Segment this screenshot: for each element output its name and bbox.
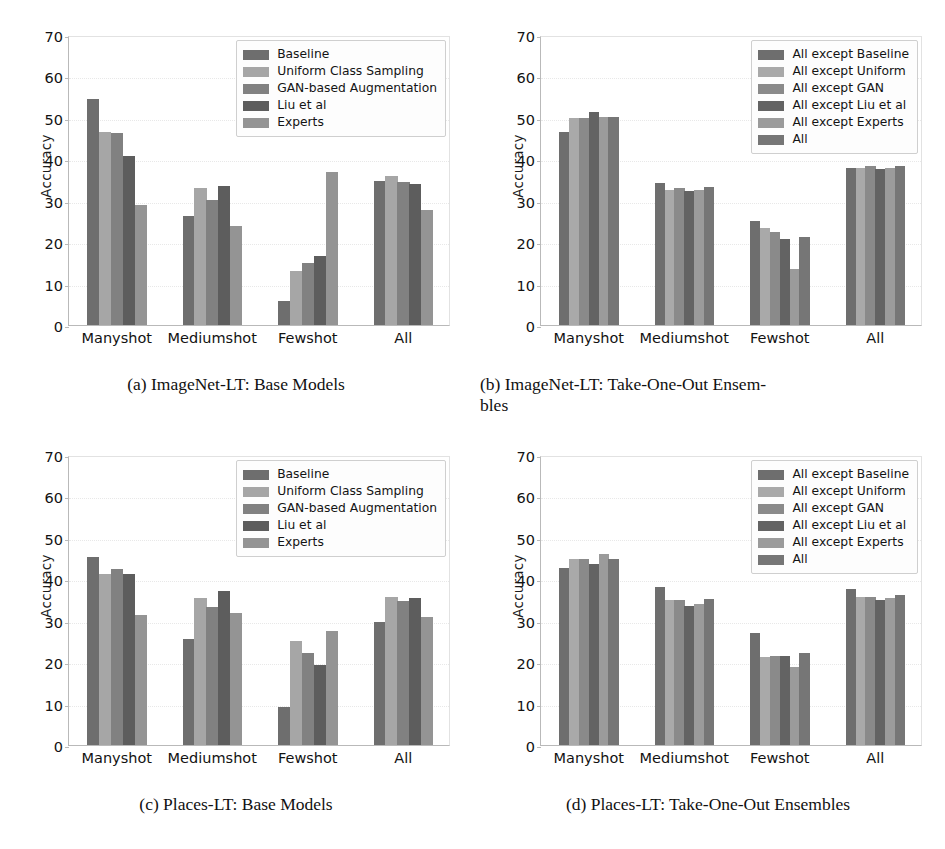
legend-item[interactable]: Liu et al bbox=[243, 97, 437, 114]
legend-swatch-icon bbox=[758, 118, 784, 128]
bar bbox=[684, 191, 694, 325]
legend-swatch-icon bbox=[243, 521, 269, 531]
bar bbox=[655, 183, 665, 326]
bar bbox=[374, 622, 386, 745]
bar bbox=[559, 132, 569, 325]
bar bbox=[750, 221, 760, 325]
bar bbox=[694, 604, 704, 745]
panel-caption-d: (d) Places-LT: Take-One-Out Ensembles bbox=[472, 794, 944, 815]
legend-swatch-icon bbox=[243, 50, 269, 60]
legend-item[interactable]: All except Uniform bbox=[758, 63, 909, 80]
legend-item[interactable]: All except Experts bbox=[758, 534, 909, 551]
bar bbox=[278, 707, 290, 745]
legend-item[interactable]: All except GAN bbox=[758, 500, 909, 517]
legend-swatch-icon bbox=[243, 84, 269, 94]
bar bbox=[704, 187, 714, 325]
bar bbox=[885, 598, 895, 745]
legend-swatch-icon bbox=[758, 487, 784, 497]
bar bbox=[194, 598, 206, 745]
legend-swatch-icon bbox=[243, 101, 269, 111]
legend-item[interactable]: All bbox=[758, 551, 909, 568]
y-tick-label: 10 bbox=[517, 278, 535, 294]
bar bbox=[278, 301, 290, 325]
legend-item[interactable]: All bbox=[758, 131, 909, 148]
bar bbox=[326, 172, 338, 325]
legend-swatch-icon bbox=[758, 538, 784, 548]
axes-d: 010203040506070ManyshotMediumshotFewshot… bbox=[540, 456, 922, 746]
legend-swatch-icon bbox=[243, 487, 269, 497]
y-tick-label: 70 bbox=[517, 449, 535, 465]
bar bbox=[194, 188, 206, 325]
plot-area-b: Accuracy010203040506070ManyshotMediumsho… bbox=[472, 8, 944, 370]
bar bbox=[183, 216, 195, 325]
bar bbox=[397, 182, 409, 325]
x-tick-label: Manyshot bbox=[82, 330, 152, 346]
legend-item[interactable]: Liu et al bbox=[243, 517, 437, 534]
legend-label: All except Experts bbox=[792, 116, 903, 128]
bar bbox=[589, 112, 599, 325]
y-tick-label: 10 bbox=[45, 698, 63, 714]
bar bbox=[290, 641, 302, 745]
x-tick-label: Mediumshot bbox=[640, 750, 729, 766]
x-tick-label: Fewshot bbox=[278, 750, 338, 766]
y-tick-label: 40 bbox=[45, 573, 63, 589]
y-tick-label: 0 bbox=[526, 319, 535, 335]
bar bbox=[326, 631, 338, 745]
legend-label: Liu et al bbox=[277, 519, 326, 531]
legend-item[interactable]: GAN-based Augmentation bbox=[243, 80, 437, 97]
legend-item[interactable]: Uniform Class Sampling bbox=[243, 483, 437, 500]
legend-item[interactable]: GAN-based Augmentation bbox=[243, 500, 437, 517]
caption-line-2: bles bbox=[480, 395, 934, 416]
legend-a[interactable]: BaselineUniform Class SamplingGAN-based … bbox=[236, 40, 446, 137]
y-tick-label: 20 bbox=[517, 656, 535, 672]
legend-label: All except Liu et al bbox=[792, 99, 906, 111]
y-tick-label: 20 bbox=[45, 236, 63, 252]
legend-b[interactable]: All except BaselineAll except UniformAll… bbox=[751, 40, 918, 154]
x-tick-label: Fewshot bbox=[750, 330, 810, 346]
plot-area-d: Accuracy010203040506070ManyshotMediumsho… bbox=[472, 428, 944, 790]
legend-label: All except Baseline bbox=[792, 48, 909, 60]
panel-a: Accuracy010203040506070ManyshotMediumsho… bbox=[0, 8, 472, 432]
legend-swatch-icon bbox=[758, 504, 784, 514]
legend-item[interactable]: All except Uniform bbox=[758, 483, 909, 500]
bar bbox=[569, 118, 579, 325]
panel-d: Accuracy010203040506070ManyshotMediumsho… bbox=[472, 428, 944, 849]
legend-item[interactable]: Baseline bbox=[243, 466, 437, 483]
legend-swatch-icon bbox=[758, 470, 784, 480]
bar bbox=[183, 639, 195, 745]
legend-item[interactable]: Baseline bbox=[243, 46, 437, 63]
y-tick-mark bbox=[65, 747, 69, 748]
bar bbox=[218, 186, 230, 325]
legend-c[interactable]: BaselineUniform Class SamplingGAN-based … bbox=[236, 460, 446, 557]
legend-swatch-icon bbox=[243, 504, 269, 514]
y-tick-label: 30 bbox=[517, 195, 535, 211]
bar bbox=[87, 557, 99, 746]
legend-item[interactable]: Experts bbox=[243, 534, 437, 551]
y-tick-label: 40 bbox=[45, 153, 63, 169]
legend-item[interactable]: All except Baseline bbox=[758, 466, 909, 483]
legend-item[interactable]: All except Baseline bbox=[758, 46, 909, 63]
bar bbox=[599, 554, 609, 745]
legend-item[interactable]: Experts bbox=[243, 114, 437, 131]
x-tick-label: Manyshot bbox=[554, 750, 624, 766]
bar bbox=[885, 168, 895, 325]
bar bbox=[218, 591, 230, 745]
caption-line-1: (d) Places-LT: Take-One-Out Ensembles bbox=[566, 794, 850, 814]
legend-d[interactable]: All except BaselineAll except UniformAll… bbox=[751, 460, 918, 574]
bar bbox=[599, 117, 609, 325]
y-tick-label: 0 bbox=[54, 319, 63, 335]
legend-item[interactable]: All except GAN bbox=[758, 80, 909, 97]
bar bbox=[302, 653, 314, 745]
bar bbox=[230, 613, 242, 745]
legend-item[interactable]: All except Experts bbox=[758, 114, 909, 131]
y-tick-label: 40 bbox=[517, 573, 535, 589]
bar bbox=[559, 568, 569, 745]
plot-area-a: Accuracy010203040506070ManyshotMediumsho… bbox=[0, 8, 472, 370]
bar bbox=[865, 166, 875, 325]
x-tick-label: Mediumshot bbox=[168, 330, 257, 346]
legend-item[interactable]: All except Liu et al bbox=[758, 97, 909, 114]
legend-item[interactable]: All except Liu et al bbox=[758, 517, 909, 534]
legend-swatch-icon bbox=[243, 470, 269, 480]
axes-b: 010203040506070ManyshotMediumshotFewshot… bbox=[540, 36, 922, 326]
legend-item[interactable]: Uniform Class Sampling bbox=[243, 63, 437, 80]
